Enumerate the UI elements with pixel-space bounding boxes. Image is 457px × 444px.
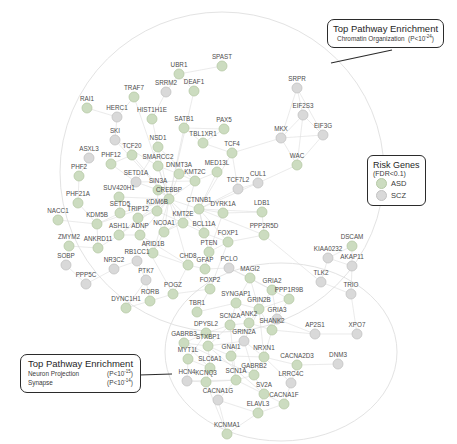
gene-label-CTNNB1: CTNNB1 — [186, 196, 212, 203]
callout-entries: Neuron Projection (P<10-15)Synapse (P<10… — [26, 369, 135, 388]
gene-label-CACNA1G: CACNA1G — [203, 387, 234, 394]
gene-node-ASH1L — [114, 230, 124, 240]
gene-label-LDB1: LDB1 — [254, 199, 270, 206]
gene-label-SUV420H1: SUV420H1 — [103, 184, 135, 191]
gene-label-ANKRD11: ANKRD11 — [84, 235, 113, 242]
gene-node-RORB — [145, 296, 155, 306]
gene-node-KCNMA1 — [222, 429, 232, 439]
gene-label-KIAA0232: KIAA0232 — [314, 245, 343, 252]
gene-label-KDM6B: KDM6B — [146, 198, 168, 205]
gene-label-KCNQ3: KCNQ3 — [195, 369, 217, 377]
callout-pointer-line — [139, 374, 172, 375]
gene-node-EIF3G — [318, 130, 328, 140]
gene-node-NR3C2 — [109, 264, 119, 274]
pathway-pvalue: (P<10-15) — [107, 369, 133, 378]
gene-node-AKAP11 — [347, 261, 357, 271]
gene-node-AP2S1 — [310, 329, 320, 339]
gene-node-PPP1R9B — [284, 294, 294, 304]
gene-node-KCNQ3 — [201, 377, 211, 387]
gene-node-BCL11A — [199, 228, 209, 238]
gene-label-SV2A: SV2A — [256, 381, 273, 388]
gene-label-SOBP: SOBP — [57, 252, 75, 259]
gene-node-CHD8 — [183, 260, 193, 270]
gene-node-HERC1 — [112, 112, 122, 122]
gene-node-LRRC4C — [286, 378, 296, 388]
network-edge — [228, 235, 264, 242]
gene-node-KIAA0232 — [323, 253, 333, 263]
gene-label-LRRC4C: LRRC4C — [278, 370, 304, 377]
gene-node-TBL1XR1 — [198, 138, 208, 148]
gene-node-SPAST — [217, 61, 227, 71]
legend-item-label: ASD — [391, 178, 406, 190]
gene-node-ADNP — [135, 230, 145, 240]
gene-node-ANKRD11 — [93, 243, 103, 253]
gene-label-TLK2: TLK2 — [313, 269, 329, 276]
gene-node-KDM6B — [152, 206, 162, 216]
gene-node-CACNA1G — [213, 395, 223, 405]
gene-node-TBR1 — [192, 307, 202, 317]
gene-label-FOXP2: FOXP2 — [200, 276, 221, 283]
gene-node-SKI — [110, 135, 120, 145]
gene-label-KMT2E: KMT2E — [173, 210, 194, 217]
gene-label-SRRM2: SRRM2 — [155, 79, 178, 86]
network-edge — [297, 364, 338, 365]
gene-node-PHF21A — [73, 198, 83, 208]
gene-node-WAC — [292, 160, 302, 170]
pathway-entry: Chromatin Organization (P<10-24) — [333, 34, 438, 43]
gene-node-NCOA1 — [159, 227, 169, 237]
gene-label-ANK2: ANK2 — [241, 310, 258, 317]
callout-title: Top Pathway Enrichment — [333, 23, 438, 34]
gene-node-UBR1 — [174, 69, 184, 79]
gene-label-GRIA2: GRIA2 — [263, 277, 282, 284]
gene-label-POGZ: POGZ — [164, 281, 182, 288]
pathway-label: Synapse — [28, 378, 56, 387]
network-edge — [281, 135, 323, 138]
gene-label-TRIO: TRIO — [343, 281, 358, 288]
gene-label-MKX: MKX — [274, 125, 288, 132]
gene-label-RAI1: RAI1 — [80, 95, 94, 102]
gene-label-CREBBP: CREBBP — [156, 186, 182, 193]
scz-color-dot-icon — [376, 190, 387, 201]
gene-label-HERC1: HERC1 — [106, 104, 128, 111]
gene-label-KCNMA1: KCNMA1 — [214, 421, 241, 428]
gene-node-CUL1 — [253, 178, 263, 188]
gene-label-SHANK2: SHANK2 — [259, 317, 285, 324]
gene-label-CACNA1F: CACNA1F — [269, 391, 299, 398]
gene-label-AKAP11: AKAP11 — [340, 253, 364, 260]
gene-label-NR3C2: NR3C2 — [104, 256, 125, 263]
gene-node-TCF7L2 — [233, 184, 243, 194]
gene-label-PHF12: PHF12 — [101, 151, 121, 158]
gene-label-XPO7: XPO7 — [349, 321, 366, 328]
gene-node-CTNNB1 — [194, 204, 204, 214]
gene-node-SETD5 — [115, 208, 125, 218]
gene-label-RB1CC1: RB1CC1 — [125, 248, 150, 255]
gene-node-ELAVL3 — [253, 408, 263, 418]
gene-node-KMT2C — [190, 176, 200, 186]
gene-node-GABRB2 — [249, 370, 259, 380]
gene-label-NSD1: NSD1 — [150, 134, 167, 141]
gene-node-PTK7 — [141, 275, 151, 285]
gene-label-TCF4: TCF4 — [224, 140, 240, 147]
gene-label-SPAST: SPAST — [212, 53, 232, 60]
gene-node-PHF2 — [74, 171, 84, 181]
gene-label-GABRB3: GABRB3 — [171, 330, 197, 337]
gene-node-STXBP1 — [203, 341, 213, 351]
pathway-entry: Synapse (P<10-14) — [26, 378, 135, 387]
network-edge — [223, 212, 262, 213]
gene-node-DEAF1 — [189, 86, 199, 96]
legend-subtitle: (FDR<0.1) — [373, 170, 420, 177]
gene-node-PCLO — [224, 263, 234, 273]
gene-node-GFAP — [200, 264, 210, 274]
gene-label-HIST1H1E: HIST1H1E — [137, 106, 167, 113]
gene-label-HCN4: HCN4 — [178, 368, 196, 375]
gene-node-SRRM2 — [161, 87, 171, 97]
gene-label-SATB1: SATB1 — [174, 115, 194, 122]
gene-label-DSCAM: DSCAM — [341, 233, 364, 240]
gene-node-SMARCC2 — [153, 161, 163, 171]
gene-label-DYRK1A: DYRK1A — [210, 200, 236, 207]
gene-label-DNMT3A: DNMT3A — [166, 161, 193, 168]
gene-label-ARID1B: ARID1B — [142, 240, 165, 247]
gene-label-TRIP12: TRIP12 — [127, 205, 149, 212]
gene-label-PTK7: PTK7 — [138, 267, 154, 274]
gene-label-SLC6A1: SLC6A1 — [198, 355, 222, 362]
